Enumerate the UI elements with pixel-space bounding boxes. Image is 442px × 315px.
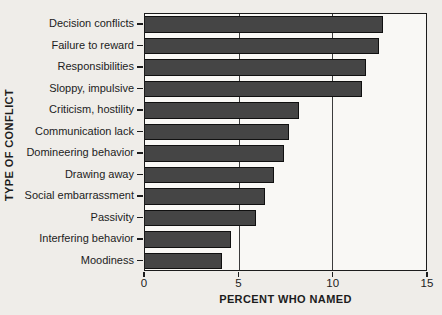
bar-sloppy-impulsive <box>145 81 362 98</box>
x-tick-label-0: 0 <box>141 277 147 290</box>
y-tick-passivity <box>137 217 143 219</box>
category-label-moodiness: Moodiness <box>0 254 134 267</box>
category-label-criticism-hostility: Criticism, hostility <box>0 103 134 116</box>
bar-criticism-hostility <box>145 102 299 119</box>
plot-area <box>144 13 427 271</box>
bar-responsibilities <box>145 59 366 76</box>
category-label-decision-conflicts: Decision conflicts <box>0 17 134 30</box>
category-label-sloppy-impulsive: Sloppy, impulsive <box>0 82 134 95</box>
category-label-communication-lack: Communication lack <box>0 125 134 138</box>
bar-passivity <box>145 210 256 227</box>
y-tick-interfering-behavior <box>137 238 143 240</box>
bar-communication-lack <box>145 124 289 141</box>
y-tick-decision-conflicts <box>137 23 143 25</box>
y-tick-moodiness <box>137 260 143 262</box>
category-label-interfering-behavior: Interfering behavior <box>0 232 134 245</box>
bar-moodiness <box>145 253 222 270</box>
x-tick-5 <box>238 272 240 277</box>
bar-interfering-behavior <box>145 231 231 248</box>
category-label-passivity: Passivity <box>0 211 134 224</box>
category-label-responsibilities: Responsibilities <box>0 60 134 73</box>
bar-drawing-away <box>145 167 274 184</box>
x-tick-label-10: 10 <box>326 277 339 290</box>
category-label-social-embarrassment: Social embarrassment <box>0 189 134 202</box>
x-axis-title: PERCENT WHO NAMED <box>144 293 427 305</box>
bar-failure-to-reward <box>145 38 379 55</box>
x-tick-10 <box>332 272 334 277</box>
x-tick-0 <box>143 272 145 277</box>
y-tick-failure-to-reward <box>137 45 143 47</box>
y-tick-sloppy-impulsive <box>137 88 143 90</box>
y-tick-domineering-behavior <box>137 152 143 154</box>
x-tick-15 <box>426 272 428 277</box>
bar-domineering-behavior <box>145 145 284 162</box>
y-tick-drawing-away <box>137 174 143 176</box>
y-tick-communication-lack <box>137 131 143 133</box>
y-tick-social-embarrassment <box>137 195 143 197</box>
y-tick-criticism-hostility <box>137 109 143 111</box>
x-tick-label-15: 15 <box>421 277 434 290</box>
y-tick-responsibilities <box>137 66 143 68</box>
bar-social-embarrassment <box>145 188 265 205</box>
category-label-failure-to-reward: Failure to reward <box>0 39 134 52</box>
bar-chart-figure: TYPE OF CONFLICT Decision conflictsFailu… <box>0 0 442 315</box>
bar-decision-conflicts <box>145 16 383 33</box>
x-tick-label-5: 5 <box>235 277 241 290</box>
category-labels: Decision conflictsFailure to rewardRespo… <box>0 13 134 271</box>
category-label-domineering-behavior: Domineering behavior <box>0 146 134 159</box>
category-label-drawing-away: Drawing away <box>0 168 134 181</box>
